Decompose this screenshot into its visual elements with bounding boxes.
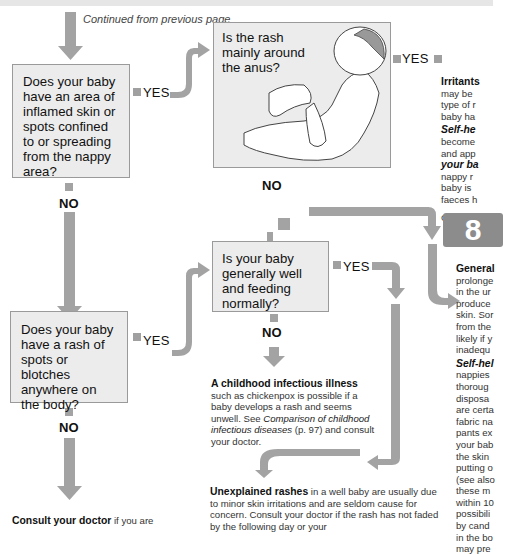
outcome-line: fabric na [456,416,507,428]
self-help-heading: Self-he [441,124,501,136]
self-help-heading: Self-hel [456,358,507,370]
outcome-infectious-illness: A childhood infectious illness such as c… [211,378,376,448]
outcome-line: may be [441,88,501,100]
outcome-line: disposa [456,393,507,405]
outcome-heading: Consult your doctor [12,515,111,526]
question-text: Does your baby have a rash of spots or b… [11,312,127,422]
outcome-line: faeces h [441,194,501,206]
outcome-line: in the ur [456,286,507,298]
outcome-unexplained-rashes: Unexplained rashes in a well baby are us… [210,486,442,532]
no-label[interactable]: NO [59,196,79,211]
outcome-line: inadequ [456,344,507,356]
outcome-line: putting o [456,462,507,474]
baby-illustration [214,23,390,167]
outcome-line: type of r [441,99,501,111]
outcome-line: (see also [456,474,507,486]
yes-marker [393,55,401,63]
outcome-line: may pre [456,543,507,555]
outcome-line: in the bo [456,532,507,544]
outcome-general: General prolonge in the ur produce skin.… [456,263,507,555]
yes-marker [133,88,141,96]
outcome-line: baby is [441,182,501,194]
yes-label[interactable]: YES [143,333,170,348]
outcome-line: from the [456,321,507,333]
outcome-line: thoroug [456,381,507,393]
outcome-line: prolonge [456,275,507,287]
outcome-line: the skin [456,451,507,463]
question-box-nappy-area: Does your baby have an area of inflamed … [12,64,130,178]
outcome-heading: Irritants [441,76,501,88]
outcome-line: baby ha [441,111,501,123]
outcome-text: if you are [111,515,153,526]
outcome-line: and app [441,148,501,160]
outcome-line: your ba [441,159,501,171]
chapter-number-badge[interactable]: 8 [443,213,503,247]
outcome-line: nappies [456,369,507,381]
outcome-consult-doctor: Consult your doctor if you are [12,515,202,527]
outcome-line: become [441,136,501,148]
outcome-line: your bab [456,439,507,451]
outcome-line: possibili [456,508,507,520]
question-box-spots-body: Does your baby have a rash of spots or b… [10,311,128,403]
yes-marker [434,55,442,63]
outcome-line: skin. Sor [456,309,507,321]
yes-label[interactable]: YES [343,259,370,274]
yes-marker [133,333,141,341]
outcome-line: are certa [456,404,507,416]
outcome-line: nappy r [441,171,501,183]
question-text: Does your baby have an area of inflamed … [13,65,129,188]
yes-marker [333,261,341,269]
no-label[interactable]: NO [262,178,282,193]
yes-label[interactable]: YES [143,85,170,100]
outcome-heading: Unexplained rashes [210,486,308,497]
outcome-irritants: Irritants may be type of r baby ha Self-… [441,76,501,223]
outcome-line: pants ex [456,427,507,439]
outcome-heading: A childhood infectious illness [211,378,358,389]
question-text: Is your baby generally well and feeding … [213,242,328,320]
question-box-anus: Is the rash mainly around the anus? [213,22,391,168]
outcome-line: within 10 [456,497,507,509]
outcome-heading: General [456,263,507,275]
no-label[interactable]: NO [59,420,79,435]
outcome-line: likely if y [456,333,507,345]
continued-note: Continued from previous page [83,13,230,26]
outcome-line: these m [456,485,507,497]
outcome-line: produce [456,298,507,310]
question-box-well-feeding: Is your baby generally well and feeding … [212,241,329,312]
no-label[interactable]: NO [262,325,282,340]
outcome-line: by cand [456,520,507,532]
yes-label[interactable]: YES [402,51,429,66]
